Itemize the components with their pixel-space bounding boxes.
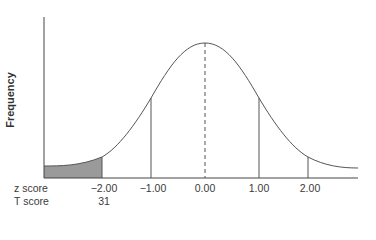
z-tick-minus1: −1.00 [140, 182, 167, 194]
t-tick-minus2: 31 [98, 195, 110, 207]
z-tick-plus1: 1.00 [249, 182, 269, 194]
normal-curve [44, 43, 358, 168]
z-tick-minus2: −2.00 [91, 182, 118, 194]
z-score-row-label: z score [14, 182, 48, 194]
z-tick-plus2: 2.00 [300, 182, 320, 194]
t-score-row-label: T score [14, 195, 49, 207]
y-axis-label: Frequency [4, 72, 16, 128]
z-tick-0: 0.00 [195, 182, 215, 194]
